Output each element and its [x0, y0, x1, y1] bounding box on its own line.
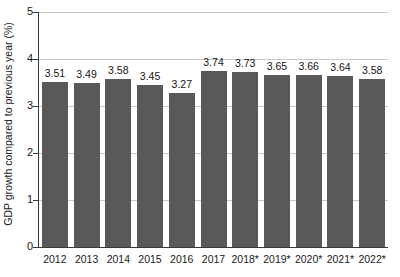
bar-value-label: 3.66	[298, 61, 318, 72]
bar[interactable]	[105, 79, 131, 247]
y-axis-tick-mark	[33, 200, 38, 201]
x-axis-tick-label: 2012	[39, 252, 71, 266]
bar-slot: 3.49	[74, 0, 100, 248]
x-axis-tick-label: 2019*	[261, 252, 293, 266]
bar[interactable]	[232, 72, 258, 247]
y-axis-tick-label: 4	[5, 53, 33, 64]
bar-slot: 3.64	[327, 0, 353, 248]
x-axis-tick-label: 2013	[71, 252, 103, 266]
bar-slot: 3.73	[232, 0, 258, 248]
bar-value-label: 3.27	[172, 79, 192, 90]
bar[interactable]	[74, 83, 100, 247]
y-axis-tick-mark	[33, 12, 38, 13]
bar[interactable]	[359, 79, 385, 247]
x-axis-tick-label: 2018*	[229, 252, 261, 266]
bar[interactable]	[327, 76, 353, 247]
bar[interactable]	[201, 71, 227, 247]
bar[interactable]	[169, 93, 195, 247]
y-axis-tick-label: 1	[5, 194, 33, 205]
bar-slot: 3.27	[169, 0, 195, 248]
bar-chart: GDP growth compared to previous year (%)…	[0, 0, 400, 277]
y-axis-tick-labels: 012345	[0, 0, 33, 277]
bar[interactable]	[137, 85, 163, 247]
y-axis-tick-mark	[33, 106, 38, 107]
x-axis-tick-label: 2015	[134, 252, 166, 266]
bar-value-label: 3.65	[267, 61, 287, 72]
bar-slot: 3.74	[201, 0, 227, 248]
bar-value-label: 3.58	[108, 65, 128, 76]
bar-slot: 3.45	[137, 0, 163, 248]
y-axis-tick-mark	[33, 247, 38, 248]
x-axis-tick-label: 2016	[166, 252, 198, 266]
bar[interactable]	[296, 75, 322, 247]
bar[interactable]	[42, 82, 68, 247]
bar-series: 3.513.493.583.453.273.743.733.653.663.64…	[39, 0, 388, 248]
bar-slot: 3.51	[42, 0, 68, 248]
bar-value-label: 3.73	[235, 58, 255, 69]
x-axis-tick-labels: 2012201320142015201620172018*2019*2020*2…	[39, 252, 388, 270]
y-axis-tick-label: 0	[5, 241, 33, 252]
x-axis-tick-label: 2022*	[356, 252, 388, 266]
bar-slot: 3.58	[359, 0, 385, 248]
y-axis-tick-label: 3	[5, 100, 33, 111]
y-axis-tick-label: 2	[5, 147, 33, 158]
x-axis-tick-label: 2020*	[293, 252, 325, 266]
y-axis-tick-mark	[33, 59, 38, 60]
bar-value-label: 3.64	[330, 62, 350, 73]
bar-slot: 3.65	[264, 0, 290, 248]
bar-slot: 3.66	[296, 0, 322, 248]
bar-value-label: 3.74	[203, 57, 223, 68]
y-axis-tick-mark	[33, 153, 38, 154]
x-axis-tick-label: 2021*	[325, 252, 357, 266]
bar-value-label: 3.58	[362, 65, 382, 76]
bar[interactable]	[264, 75, 290, 247]
bar-value-label: 3.51	[45, 68, 65, 79]
bar-value-label: 3.45	[140, 71, 160, 82]
x-axis-tick-label: 2014	[102, 252, 134, 266]
y-axis-tick-label: 5	[5, 6, 33, 17]
bar-slot: 3.58	[105, 0, 131, 248]
x-axis-tick-label: 2017	[198, 252, 230, 266]
bar-value-label: 3.49	[76, 69, 96, 80]
